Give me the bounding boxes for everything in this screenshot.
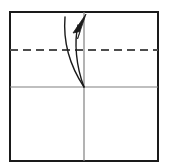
origami-illustration	[0, 0, 169, 168]
origami-diagram	[0, 0, 169, 168]
